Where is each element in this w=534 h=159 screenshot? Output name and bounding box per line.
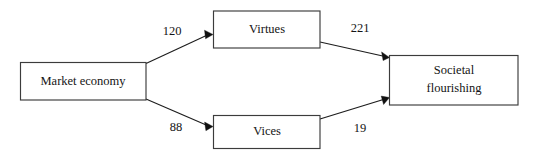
node-label-societal-flourishing-line2: flourishing bbox=[427, 81, 483, 95]
edge-virtues-to-societal-flourishing bbox=[320, 42, 390, 61]
edge-label-market-to-virtues: 120 bbox=[163, 24, 182, 38]
edge-label-vices-to-societal: 19 bbox=[354, 121, 367, 135]
arrowhead-into-virtues bbox=[205, 30, 214, 39]
arrowhead-into-societal-bottom bbox=[381, 96, 389, 104]
edge-line-virtues-to-societal bbox=[320, 42, 385, 57]
node-societal-flourishing: Societal flourishing bbox=[390, 56, 519, 106]
node-virtues: Virtues bbox=[214, 11, 321, 48]
node-label-societal-flourishing-line1: Societal bbox=[434, 63, 475, 77]
node-market-economy: Market economy bbox=[21, 63, 147, 101]
path-diagram: Market economy Virtues Vices Societal fl… bbox=[0, 0, 534, 159]
edge-label-market-to-vices: 88 bbox=[170, 120, 183, 134]
node-label-market-economy: Market economy bbox=[40, 74, 126, 88]
arrowhead-into-vices bbox=[205, 122, 213, 131]
edge-line-market-to-virtues bbox=[146, 35, 209, 64]
node-label-vices: Vices bbox=[253, 124, 281, 138]
diagram-canvas: Market economy Virtues Vices Societal fl… bbox=[0, 0, 534, 159]
arrowhead-into-societal-top bbox=[382, 52, 390, 61]
edge-label-virtues-to-societal: 221 bbox=[351, 21, 370, 35]
node-vices: Vices bbox=[214, 116, 321, 149]
edge-line-vices-to-societal bbox=[320, 99, 385, 119]
edge-vices-to-societal-flourishing bbox=[320, 96, 390, 119]
node-label-virtues: Virtues bbox=[249, 22, 285, 36]
